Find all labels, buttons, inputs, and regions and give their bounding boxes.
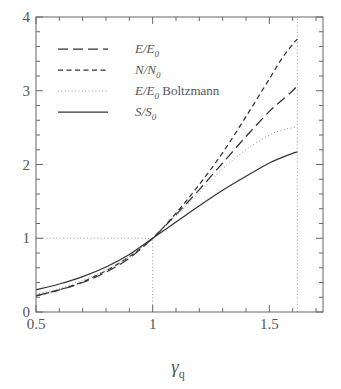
- x-tick-label: 1: [149, 316, 157, 332]
- x-tick-label: 1.5: [260, 316, 279, 332]
- y-tick-label: 3: [23, 83, 31, 99]
- plot-canvas: 0.511.501234 E/E0N/N0E/E0 BoltzmannS/S0 …: [0, 0, 341, 389]
- y-tick-label: 1: [23, 230, 31, 246]
- y-tick-label: 2: [23, 157, 31, 173]
- y-tick-label: 0: [23, 304, 31, 320]
- y-tick-label: 4: [23, 9, 31, 25]
- figure-container: 0.511.501234 E/E0N/N0E/E0 BoltzmannS/S0 …: [0, 0, 341, 389]
- plot-background: [0, 0, 341, 389]
